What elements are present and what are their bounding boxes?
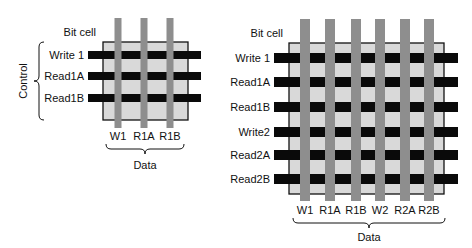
bit-cell-box [289, 43, 444, 194]
control-line-label: Read1A [230, 76, 270, 88]
control-brace [34, 42, 44, 120]
data-group-label: Data [133, 159, 157, 171]
data-line-label: R1A [133, 130, 155, 142]
control-line-label: Read2B [230, 173, 270, 185]
control-line-label: Read1B [230, 101, 270, 113]
control-line-label: Read1B [44, 92, 84, 104]
control-line-label: Write2 [238, 126, 270, 138]
data-bitline [375, 19, 385, 201]
control-line-label: Write 1 [49, 49, 84, 61]
data-line-label: R2B [418, 204, 439, 216]
data-group-label: Data [357, 231, 381, 243]
control-line-label: Read1A [44, 70, 84, 82]
control-group-label: Control [17, 63, 29, 98]
data-brace [293, 218, 445, 228]
data-bitline [400, 19, 410, 201]
data-bitline [167, 18, 174, 128]
data-bitline [424, 19, 434, 201]
data-line-label: W1 [297, 204, 314, 216]
data-bitline [141, 18, 148, 128]
bit-cell-title: Bit cell [64, 26, 96, 38]
control-line-label: Write 1 [235, 52, 270, 64]
data-line-label: R1A [319, 204, 341, 216]
data-line-label: W1 [110, 130, 127, 142]
single-port-cell: Write 1Read1ARead1BW1R1AR1BBit cellDataC… [17, 18, 201, 171]
dual-port-cell: Write 1Read1ARead1BWrite2Read2ARead2BW1R… [230, 19, 458, 243]
data-bitline [351, 19, 361, 201]
data-brace [106, 144, 184, 154]
control-line-label: Read2A [230, 149, 270, 161]
data-bitline [300, 19, 310, 201]
data-bitline [115, 18, 122, 128]
data-line-label: R1B [345, 204, 366, 216]
bit-cell-title: Bit cell [251, 27, 283, 39]
data-line-label: R1B [159, 130, 180, 142]
bit-cell-diagram: Write 1Read1ARead1BW1R1AR1BBit cellDataC… [0, 0, 472, 248]
data-bitline [325, 19, 335, 201]
data-line-label: R2A [394, 204, 416, 216]
data-line-label: W2 [372, 204, 389, 216]
